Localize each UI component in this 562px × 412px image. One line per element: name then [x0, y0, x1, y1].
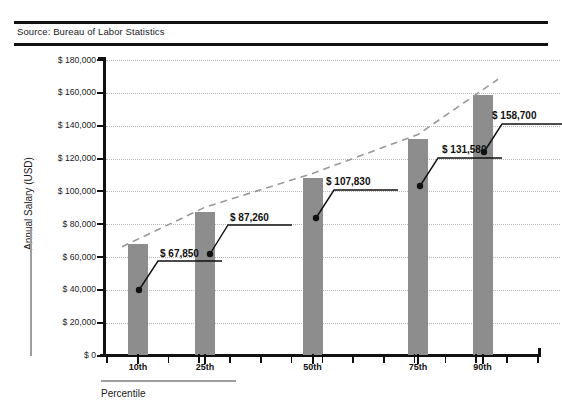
data-label-leader-line: [420, 158, 502, 186]
x-axis-tick: [383, 354, 385, 363]
data-label-leader-line: [210, 225, 292, 254]
y-axis-title: Annual Salary (USD): [23, 124, 34, 284]
y-axis-title-rule: [30, 228, 32, 356]
x-axis-tick-label: 25th: [196, 362, 215, 372]
x-axis-tick: [352, 354, 354, 363]
data-label-anchor-dot: [207, 251, 213, 257]
data-label: $ 158,700: [492, 110, 537, 121]
x-axis-tick-label: 75th: [409, 362, 428, 372]
x-axis-tick: [168, 354, 170, 363]
x-axis-title-rule: [101, 380, 236, 382]
data-label: $ 67,850: [160, 248, 199, 259]
data-label: $ 87,260: [230, 212, 269, 223]
x-axis-tick: [291, 354, 293, 363]
data-label-leader-line: [484, 124, 562, 152]
x-axis-title: Percentile: [101, 388, 145, 399]
x-axis-tick: [445, 354, 447, 363]
x-axis-tick: [106, 354, 108, 363]
x-axis-tick: [506, 354, 508, 363]
data-label-anchor-dot: [136, 287, 142, 293]
data-label-anchor-dot: [417, 183, 423, 189]
data-label: $ 131,580: [442, 144, 487, 155]
chart-figure: Source: Bureau of Labor Statistics $ 0$ …: [0, 0, 562, 412]
x-axis-tick: [260, 354, 262, 363]
x-axis-tick-label: 90th: [473, 362, 492, 372]
trend-line: [122, 79, 498, 246]
x-axis-tick: [537, 354, 539, 363]
data-label-leader-line: [139, 261, 222, 290]
x-axis-tick-label: 50th: [303, 362, 322, 372]
x-axis-tick: [229, 354, 231, 363]
data-label: $ 107,830: [326, 176, 371, 187]
data-label-leader-line: [316, 190, 398, 218]
trend-and-leaders-overlay: [0, 0, 562, 412]
data-label-anchor-dot: [313, 215, 319, 221]
x-axis-tick-label: 10th: [129, 362, 148, 372]
